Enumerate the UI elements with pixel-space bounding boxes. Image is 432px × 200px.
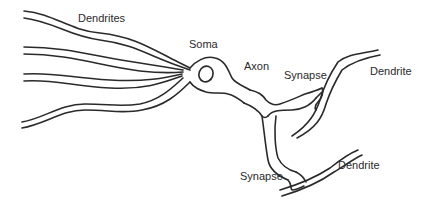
- neuron-diagram: Dendrites Soma Axon Synapse Dendrite Syn…: [0, 0, 432, 200]
- label-axon: Axon: [244, 61, 269, 72]
- label-soma: Soma: [189, 39, 218, 50]
- label-dendrites: Dendrites: [78, 13, 125, 24]
- label-synapse-upper: Synapse: [284, 70, 327, 81]
- dendrite-branch-3: [24, 74, 182, 89]
- label-dendrite-lower: Dendrite: [338, 160, 380, 171]
- dendrite-branch-2: [24, 47, 183, 73]
- nucleus: [197, 64, 216, 84]
- soma-body: [190, 57, 250, 103]
- dendrite-branch-4: [22, 78, 190, 128]
- axon: [244, 88, 322, 180]
- label-dendrite-upper: Dendrite: [370, 66, 412, 77]
- synapse-upper: [315, 88, 323, 110]
- label-synapse-lower: Synapse: [240, 171, 283, 182]
